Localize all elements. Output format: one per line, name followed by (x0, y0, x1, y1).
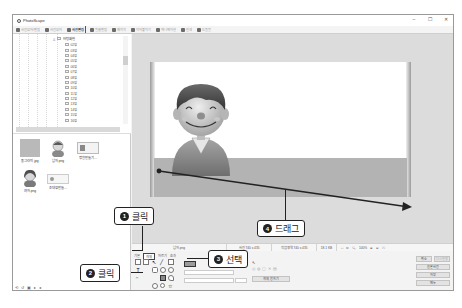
callout-leader (131, 272, 143, 273)
callout-leader (132, 250, 143, 251)
step-number: 3 (214, 255, 223, 264)
callout-step-2: 2클릭 (80, 264, 120, 282)
callout-text: 드래그 (275, 222, 299, 235)
callout-step-1: 1클릭 (114, 207, 154, 225)
callout-text: 클릭 (98, 267, 114, 280)
callout-leader (285, 190, 286, 220)
callout-text: 클릭 (132, 210, 148, 223)
step-number: 2 (86, 269, 95, 278)
callout-step-4: 4드래그 (257, 220, 305, 237)
step-number: 4 (263, 224, 272, 233)
callout-leader (187, 258, 209, 259)
step-number: 1 (120, 212, 129, 221)
callout-leader (142, 226, 143, 250)
callout-step-3: 3선택 (208, 250, 248, 268)
callout-text: 선택 (226, 253, 242, 266)
